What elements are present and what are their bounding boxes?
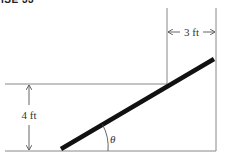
height-label: 4 ft xyxy=(22,109,37,121)
angle-label: θ xyxy=(110,133,116,145)
width-dimension: 3 ft xyxy=(168,26,215,38)
angle-arc xyxy=(103,125,109,152)
height-dimension: 4 ft xyxy=(22,85,37,150)
width-label: 3 ft xyxy=(184,26,199,38)
rod xyxy=(61,59,214,149)
rod-in-corridor-diagram: 3 ft 4 ft θ xyxy=(0,0,225,160)
